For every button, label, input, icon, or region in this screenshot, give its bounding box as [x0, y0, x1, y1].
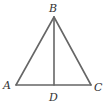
- triangle-diagram: B A C D: [0, 0, 109, 105]
- label-a: A: [2, 79, 11, 92]
- label-c: C: [94, 81, 103, 94]
- label-d: D: [48, 91, 58, 104]
- segment-bc: [54, 17, 91, 85]
- label-b: B: [48, 2, 57, 15]
- segment-ab: [16, 17, 54, 85]
